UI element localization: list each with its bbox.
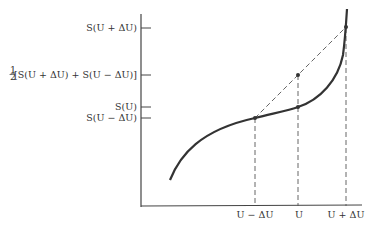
dashed-chord (255, 27, 346, 118)
x-label-u-plus: U + ΔU (328, 209, 365, 220)
point-s-u (296, 105, 300, 109)
y-label-s-u-minus: S(U − ΔU) (86, 112, 137, 123)
y-label-s-avg-text: [S(U + ΔU) + S(U − ΔU)] (14, 69, 137, 80)
x-label-u-minus: U − ΔU (237, 209, 274, 220)
y-label-s-u-plus: S(U + ΔU) (86, 22, 137, 33)
function-curve (170, 9, 347, 180)
x-axis (141, 205, 362, 206)
diagram-canvas: S(U + ΔU) 1 2 [S(U + ΔU) + S(U − ΔU)] S(… (0, 0, 375, 227)
x-label-u: U (295, 209, 303, 220)
y-label-s-avg: 1 2 [S(U + ΔU) + S(U − ΔU)] (10, 64, 138, 82)
y-label-s-u: S(U) (115, 101, 137, 112)
point-average (296, 73, 300, 77)
point-s-u-minus (253, 116, 257, 120)
point-s-u-plus (344, 25, 348, 29)
